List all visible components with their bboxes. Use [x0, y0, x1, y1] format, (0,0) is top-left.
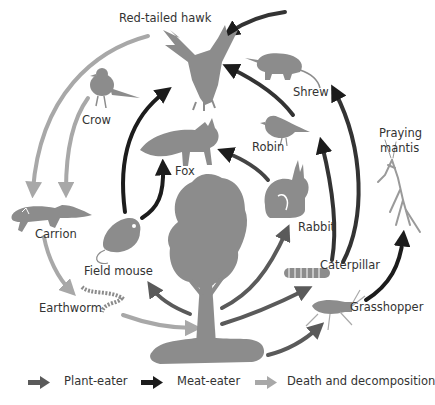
legend-label-decomposition: Death and decomposition — [287, 375, 435, 388]
food-web-graphic — [0, 0, 435, 405]
tree-icon — [150, 174, 264, 364]
label-field-mouse: Field mouse — [84, 265, 153, 278]
label-carrion: Carrion — [35, 228, 77, 241]
legend-label-plant-eater: Plant-eater — [64, 375, 128, 388]
label-rabbit: Rabbit — [298, 221, 335, 234]
arrow-tree-to-grasshopper — [268, 328, 318, 355]
arrow-earthworm-to-tree — [123, 315, 193, 328]
label-fox: Fox — [175, 165, 195, 178]
label-red-tailed-hawk: Red-tailed hawk — [119, 12, 211, 25]
fox-icon — [140, 118, 219, 166]
arrow-carrion-to-earthworm — [44, 237, 70, 290]
arrow-tree-to-caterpillar — [222, 290, 305, 324]
arrow-rabbit-to-fox — [225, 152, 268, 180]
arrow-caterpillar-to-shrew — [335, 92, 359, 262]
field-mouse-icon — [97, 218, 141, 264]
label-praying-mantis-1: Praying — [379, 127, 422, 140]
legend-arrow-meat-eater — [141, 376, 163, 389]
arrow-shrew-to-hawk — [230, 12, 285, 32]
arrow-fieldmouse-to-fox — [142, 167, 163, 218]
crow-icon — [90, 68, 140, 108]
label-caterpillar: Caterpillar — [320, 259, 380, 272]
legend-arrow-plant-eater — [28, 376, 50, 389]
label-robin: Robin — [252, 141, 284, 154]
legend-label-meat-eater: Meat-eater — [177, 375, 240, 388]
label-praying-mantis-2: mantis — [380, 142, 419, 155]
decomposition-arrows — [33, 36, 193, 328]
arrow-tree-to-fieldmouse — [152, 288, 190, 314]
label-shrew: Shrew — [293, 86, 329, 99]
label-grasshopper: Grasshopper — [350, 301, 423, 314]
rabbit-icon — [265, 160, 309, 218]
label-crow: Crow — [82, 114, 111, 127]
food-web-diagram: Red-tailed hawk Crow Fox Shrew Robin Rab… — [0, 0, 435, 405]
label-earthworm: Earthworm — [39, 302, 102, 315]
arrow-caterpillar-to-robin — [322, 145, 334, 260]
arrow-crow-to-carrion — [66, 98, 88, 190]
legend-arrow-decomposition — [255, 376, 277, 389]
hawk-icon — [163, 25, 238, 111]
